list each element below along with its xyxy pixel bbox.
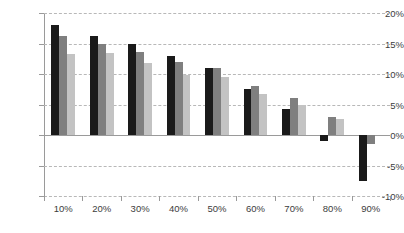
- bar: [251, 86, 259, 135]
- bar-chart: 20%15%10%5%0%-5%-10% 10%20%30%40%50%60%7…: [0, 0, 404, 233]
- bar: [167, 56, 175, 135]
- x-axis-label: 60%: [246, 203, 265, 214]
- bar: [298, 105, 306, 136]
- gridline: [44, 166, 390, 167]
- bar: [175, 62, 183, 135]
- x-axis-label: 70%: [284, 203, 303, 214]
- bar: [205, 68, 213, 135]
- bar: [282, 109, 290, 135]
- x-axis-label: 80%: [323, 203, 342, 214]
- gridline: [44, 13, 390, 14]
- bar: [90, 36, 98, 135]
- x-axis-label: 90%: [361, 203, 380, 214]
- x-axis-label: 20%: [92, 203, 111, 214]
- bar: [128, 44, 136, 136]
- bar: [367, 135, 375, 144]
- plot-area: [44, 13, 390, 196]
- bar: [244, 89, 252, 135]
- bar: [290, 98, 298, 135]
- bar: [67, 54, 75, 135]
- x-axis-tick: [82, 196, 83, 201]
- bar: [221, 77, 229, 135]
- bar: [328, 117, 336, 135]
- x-axis-tick: [44, 196, 45, 201]
- x-axis-tick: [159, 196, 160, 201]
- bar: [136, 52, 144, 135]
- x-axis-tick: [275, 196, 276, 201]
- bar: [106, 53, 114, 135]
- x-axis-tick: [198, 196, 199, 201]
- bar: [98, 44, 106, 136]
- bar: [259, 94, 267, 135]
- bar: [359, 135, 367, 181]
- x-axis-tick: [121, 196, 122, 201]
- x-axis-label: 30%: [131, 203, 150, 214]
- x-axis-label: 10%: [54, 203, 73, 214]
- bar: [320, 135, 328, 141]
- bar: [144, 63, 152, 135]
- bar: [51, 25, 59, 135]
- gridline: [44, 196, 390, 197]
- x-axis-label: 50%: [207, 203, 226, 214]
- bar: [213, 68, 221, 135]
- x-axis-tick: [313, 196, 314, 201]
- zero-baseline: [44, 135, 390, 136]
- x-axis-tick: [390, 196, 391, 201]
- bar: [336, 119, 344, 135]
- bar: [59, 36, 67, 135]
- bar: [183, 75, 191, 135]
- x-axis-tick: [236, 196, 237, 201]
- x-axis-tick: [352, 196, 353, 201]
- x-axis-label: 40%: [169, 203, 188, 214]
